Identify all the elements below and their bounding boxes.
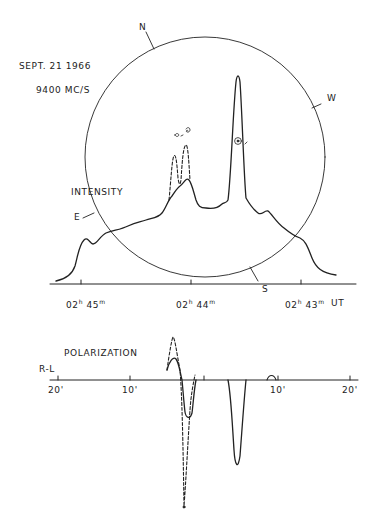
north-tick (146, 32, 154, 49)
frequency-label: 9400 MC/S (36, 85, 90, 95)
solar-disk-circle (85, 37, 325, 277)
polarization-curve-solid-2 (228, 380, 246, 465)
figure-canvas (0, 0, 381, 527)
active-region-symbols (175, 128, 247, 145)
x-tick-label-0244: 02h 44m (176, 298, 216, 310)
intensity-curve-dashed (169, 145, 190, 200)
date-label: SEPT. 21 1966 (19, 61, 91, 71)
compass-west: W (327, 93, 337, 103)
polarization-curve-small-bump (267, 376, 276, 381)
x-axis-unit: UT (331, 298, 344, 308)
pol-tick-label-10-right: 10' (270, 385, 286, 395)
pol-tick-label-20-right: 20' (342, 385, 358, 395)
intensity-curve-solid (56, 76, 336, 281)
pol-dashed-end-marker (183, 506, 185, 508)
east-tick (83, 213, 94, 218)
intensity-label: INTENSITY (71, 187, 123, 197)
pol-tick-label-20-left: 20' (48, 385, 64, 395)
compass-south: S (262, 284, 268, 294)
polarization-ylabel: R-L (39, 364, 55, 374)
compass-north: N (139, 22, 146, 32)
x-tick-label-0243: 02h 43m (285, 298, 325, 310)
polarization-curve-dashed (167, 337, 195, 506)
pol-tick-label-10-left: 10' (122, 385, 138, 395)
south-tick (250, 267, 258, 281)
x-tick-label-0245: 02h 45m (66, 298, 106, 310)
compass-east: E (74, 212, 80, 222)
polarization-title: POLARIZATION (64, 348, 138, 358)
